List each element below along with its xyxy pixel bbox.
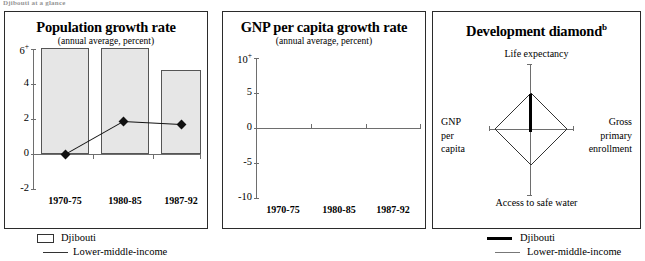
gnp-ytick-neg5 (254, 163, 259, 164)
population-x-axis (33, 154, 201, 155)
population-ytick-4 (31, 84, 36, 85)
gnp-xlabel-1970-75: 1970-75 (253, 204, 313, 215)
population-subtitle: (annual average, percent) (5, 36, 207, 46)
gnp-x-axis (256, 128, 421, 129)
gnp-ylabel-0: 0 (223, 121, 252, 132)
box-swatch-icon (37, 234, 54, 243)
figure-root: Djibouti at a glance Population growth r… (0, 0, 645, 261)
panel-gnp-growth: GNP per capita growth rate (annual avera… (222, 11, 426, 229)
diamond-title: Development diamondb (433, 22, 640, 40)
gnp-xtick-2 (366, 124, 367, 129)
gnp-xlabel-1987-92: 1987-92 (363, 204, 423, 215)
population-legend: Djibouti Lower-middle-income (37, 231, 217, 259)
diamond-title-footnote: b (602, 22, 607, 32)
panel-development-diamond: Development diamondb Life expectancy Acc… (432, 11, 641, 229)
diamond-tick-left (489, 126, 490, 131)
thin-line-swatch-icon (495, 252, 520, 253)
population-ylabel-neg2: -2 (5, 182, 29, 193)
diamond-label-life-expectancy: Life expectancy (433, 48, 640, 59)
legend-label-diamond-lower-middle-income: Lower-middle-income (527, 245, 621, 259)
legend-label-djibouti: Djibouti (61, 231, 96, 245)
population-xtick-1 (93, 154, 94, 159)
population-xlabel-1980-85: 1980-85 (95, 195, 155, 206)
legend-item-djibouti: Djibouti (37, 231, 217, 245)
diamond-tick-top (527, 64, 532, 65)
population-title: Population growth rate (5, 19, 207, 36)
population-ylabel-4: 4 (5, 77, 29, 88)
diamond-djibouti-series (529, 94, 532, 132)
gnp-ytick-10 (254, 58, 259, 59)
diamond-label-gross-primary-enrollment: Gross primary enrollment (570, 115, 632, 156)
legend-item-lower-middle-income: Lower-middle-income (37, 245, 217, 259)
legend-label-lower-middle-income: Lower-middle-income (73, 245, 167, 259)
population-xtick-2 (153, 154, 154, 159)
population-ylabel-6: 6+ (5, 42, 29, 56)
diamond-label-access-to-safe-water: Access to safe water (433, 197, 640, 208)
population-bar-1987-92 (161, 70, 201, 154)
population-ylabel-2: 2 (5, 112, 29, 123)
population-ytick-6 (31, 49, 36, 50)
cut-off-page-header: Djibouti at a glance (3, 0, 173, 7)
panel-population-growth: Population growth rate (annual average, … (4, 11, 208, 229)
gnp-ylabel-5: 5 (223, 86, 252, 97)
population-ylabel-0: 0 (5, 147, 29, 158)
population-bar-1980-85 (101, 48, 149, 154)
population-xlabel-1970-75: 1970-75 (35, 195, 95, 206)
population-ytick-2 (31, 119, 36, 120)
gnp-xtick-3 (420, 124, 421, 129)
legend-item-diamond-djibouti: Djibouti (487, 231, 645, 245)
population-bar-1970-75 (41, 48, 89, 154)
diamond-tick-right (573, 126, 574, 131)
gnp-subtitle: (annual average, percent) (223, 36, 425, 46)
legend-label-diamond-djibouti: Djibouti (520, 231, 555, 245)
population-xtick-3 (200, 154, 201, 159)
gnp-ylabel-10: 10+ (223, 51, 252, 65)
gnp-title: GNP per capita growth rate (223, 19, 425, 36)
population-xlabel-1987-92: 1987-92 (151, 195, 211, 206)
thick-line-swatch-icon (487, 237, 512, 240)
gnp-ytick-neg10 (254, 198, 259, 199)
gnp-ylabel-neg10: -10 (223, 191, 252, 202)
diamond-tick-bottom (527, 195, 532, 196)
gnp-xtick-1 (311, 124, 312, 129)
line-swatch-icon (43, 252, 68, 253)
diamond-label-gnp-per-capita: GNP per capita (441, 115, 489, 156)
gnp-ytick-5 (254, 93, 259, 94)
legend-item-diamond-lower-middle-income: Lower-middle-income (487, 245, 645, 259)
population-ytick-neg2 (31, 189, 36, 190)
diamond-legend: Djibouti Lower-middle-income (487, 231, 645, 259)
gnp-xlabel-1980-85: 1980-85 (309, 204, 369, 215)
gnp-ylabel-neg5: -5 (223, 156, 252, 167)
